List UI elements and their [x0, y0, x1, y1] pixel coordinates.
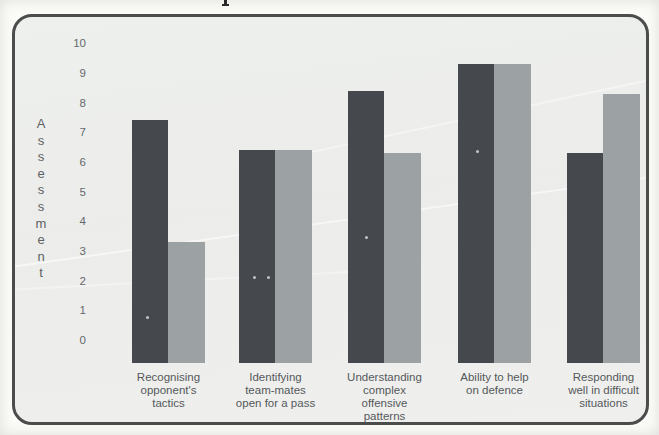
x-category-label-line: well in difficult — [539, 384, 650, 397]
y-tick-label: 5 — [50, 185, 86, 199]
scan-speck — [476, 150, 479, 153]
y-tick-label: 9 — [50, 66, 86, 80]
y-tick-label: 0 — [50, 333, 86, 347]
x-category-label-line: situations — [539, 397, 650, 410]
scan-crease — [12, 169, 649, 271]
y-tick-label: 7 — [50, 125, 86, 139]
x-category-label-line: offensive — [320, 397, 450, 410]
x-category-label-line: patterns — [320, 410, 450, 423]
bar-series-2-light-grey-cat1 — [168, 242, 205, 363]
x-category-label-line: Responding — [539, 371, 650, 384]
scan-crease — [260, 64, 649, 164]
bar-series-2-light-grey-cat5 — [603, 94, 640, 363]
y-tick-label: 2 — [50, 274, 86, 288]
y-tick-label: 4 — [50, 214, 86, 228]
y-tick-label: 1 — [50, 303, 86, 317]
y-axis-title-letter: s — [29, 199, 53, 216]
bar-series-1-dark-grey-cat4 — [458, 64, 494, 363]
bar-series-1-dark-grey-cat3 — [348, 91, 384, 363]
bar-series-2-light-grey-cat2 — [275, 150, 312, 363]
y-tick-label: 8 — [50, 96, 86, 110]
y-tick-label: 10 — [50, 36, 86, 50]
scan-speck — [253, 276, 256, 279]
y-tick-label: 6 — [50, 155, 86, 169]
scan-speck — [146, 316, 149, 319]
bar-series-2-light-grey-cat3 — [384, 153, 421, 363]
bar-series-1-dark-grey-cat1 — [132, 120, 168, 363]
bar-series-1-dark-grey-cat5 — [567, 153, 603, 363]
bar-series-1-dark-grey-cat2 — [239, 150, 275, 363]
chart-frame: Assessment 109876543210 Recognisingoppon… — [12, 14, 649, 425]
page-crop-text-remnant — [224, 0, 227, 6]
bar-series-2-light-grey-cat4 — [494, 64, 531, 363]
y-tick-label: 3 — [50, 244, 86, 258]
scanned-chart-page: Assessment 109876543210 Recognisingoppon… — [0, 0, 659, 435]
scan-speck — [267, 276, 270, 279]
x-category-label: Respondingwell in difficultsituations — [539, 371, 650, 410]
scan-speck — [365, 236, 368, 239]
